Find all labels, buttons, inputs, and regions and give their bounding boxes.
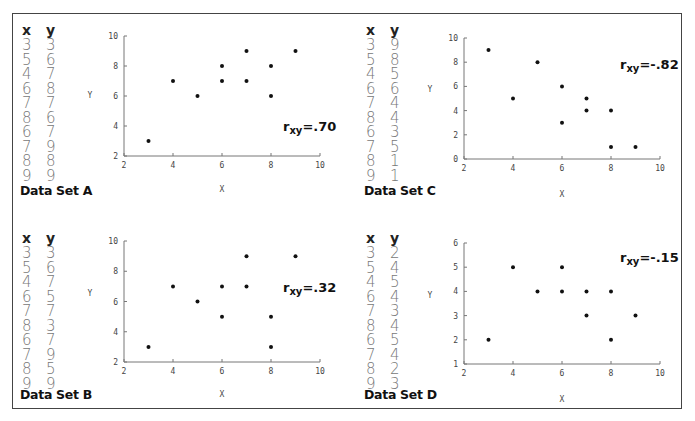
data-point	[487, 338, 491, 342]
x-axis-label: X	[560, 395, 565, 404]
y-tick-label: 5	[453, 263, 458, 272]
x-tick-label: 2	[462, 369, 467, 378]
x-tick-label: 4	[511, 369, 516, 378]
data-point	[609, 289, 613, 293]
y-axis-label: Y	[428, 291, 433, 300]
y-tick-label: 1	[453, 360, 458, 369]
scatter-plot: 246810123456XY	[0, 0, 695, 421]
data-point	[560, 265, 564, 269]
data-point	[560, 289, 564, 293]
data-point	[609, 338, 613, 342]
data-point	[536, 289, 540, 293]
y-tick-label: 6	[453, 239, 458, 248]
r-value: =-.15	[639, 250, 678, 265]
y-tick-label: 3	[453, 312, 458, 321]
x-tick-label: 8	[609, 369, 614, 378]
data-point	[585, 314, 589, 318]
x-tick-label: 10	[655, 369, 665, 378]
r-subscript: xy	[626, 256, 639, 267]
data-point	[511, 265, 515, 269]
y-tick-label: 4	[453, 287, 458, 296]
y-tick-label: 2	[453, 336, 458, 345]
data-point	[585, 289, 589, 293]
data-point	[634, 314, 638, 318]
correlation-label: rxy=-.15	[620, 250, 679, 267]
x-tick-label: 6	[560, 369, 565, 378]
